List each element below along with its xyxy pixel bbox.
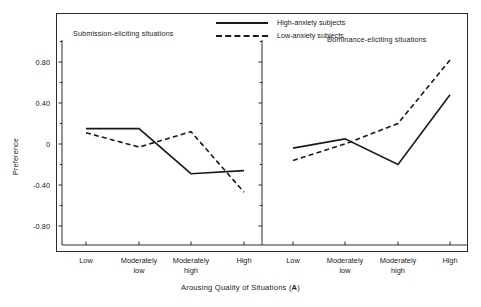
series-line-low-anxiety-subjects [86,132,244,192]
plot-svg [0,0,481,307]
series-line-high-anxiety-subjects [86,129,244,174]
chart-figure: Submission-eliciting situations Dominanc… [0,0,481,307]
series-line-high-anxiety-subjects [293,95,450,165]
series-line-low-anxiety-subjects [293,60,450,160]
